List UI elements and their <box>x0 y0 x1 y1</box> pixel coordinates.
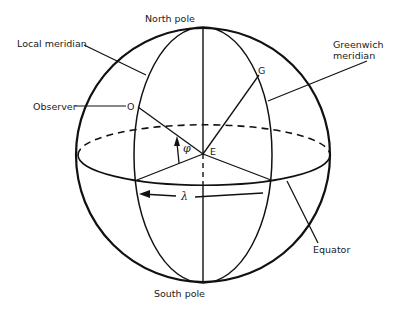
longitude-line-right <box>195 193 263 197</box>
label-north-pole: North pole <box>145 13 195 24</box>
point-earth-center-E: E <box>210 146 216 157</box>
equator-front <box>78 155 330 185</box>
radius-to-greenwich-equator <box>203 154 271 180</box>
globe-diagram: North pole South pole Local meridian Gre… <box>0 0 394 313</box>
label-greenwich-line2: meridian <box>333 50 375 61</box>
label-equator: Equator <box>313 244 350 255</box>
label-greenwich-line1: Greenwich <box>333 39 383 50</box>
leader-local-meridian <box>84 45 146 75</box>
longitude-arrowhead-icon <box>139 190 150 198</box>
angle-latitude-phi: φ <box>183 142 191 155</box>
equator-back <box>78 125 330 155</box>
radius-to-observer <box>138 107 203 154</box>
label-observer: Observer <box>33 101 77 112</box>
leader-greenwich <box>268 61 367 101</box>
point-greenwich-G: G <box>258 65 265 76</box>
label-local-meridian: Local meridian <box>17 38 87 49</box>
label-south-pole: South pole <box>154 288 205 299</box>
point-observer-O: O <box>127 101 134 112</box>
radius-to-greenwich <box>203 75 259 154</box>
angle-longitude-lambda: λ <box>180 190 188 203</box>
local-meridian <box>134 27 203 283</box>
radius-to-local-equator <box>137 154 203 180</box>
